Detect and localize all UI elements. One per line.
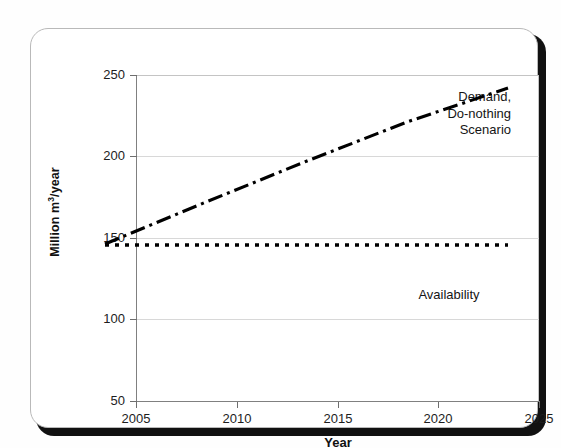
- x-tick-label-2015: 2015: [303, 412, 373, 425]
- y-tick-label-150-wrap: 150: [85, 231, 125, 245]
- y-axis-title: Million m3/year: [48, 142, 62, 282]
- y-tick-mark-200: [130, 156, 137, 157]
- y-axis-title-prefix: Million m: [48, 202, 62, 257]
- x-axis-title: Year: [136, 435, 540, 448]
- y-tick-label-150: 150: [85, 231, 125, 244]
- x-tick-label-2010: 2010: [202, 412, 272, 425]
- x-tick-mark-2025: [539, 402, 540, 408]
- y-tick-mark-100: [130, 319, 137, 320]
- gridline-150: [137, 238, 539, 239]
- y-tick-label-100-wrap: 100: [85, 312, 125, 326]
- x-tick-mark-2020: [438, 402, 439, 408]
- gridline-200: [137, 156, 539, 157]
- availability-series-annotation: Availability: [369, 287, 529, 302]
- y-axis-title-suffix: /year: [48, 167, 62, 197]
- demand-annotation-line-2: Do-nothing: [383, 106, 511, 123]
- gridline-100: [137, 319, 539, 320]
- demand-annotation-line-1: Demand,: [383, 89, 511, 106]
- y-tick-label-200-wrap: 200: [85, 149, 125, 163]
- x-tick-mark-2010: [237, 402, 238, 408]
- x-tick-label-2020: 2020: [403, 412, 473, 425]
- chart-card: 250 200 150 100 50 2005 2010 2015 2020 2…: [30, 28, 538, 428]
- y-tick-label-250: 250: [85, 68, 125, 81]
- y-tick-label-100: 100: [85, 312, 125, 325]
- y-tick-label-200: 200: [85, 149, 125, 162]
- figure-root: 250 200 150 100 50 2005 2010 2015 2020 2…: [0, 0, 561, 448]
- y-axis-title-superscript: 3: [46, 197, 56, 202]
- y-tick-label-50-wrap: 50: [85, 394, 125, 408]
- y-tick-label-50: 50: [85, 394, 125, 407]
- y-tick-mark-250: [130, 75, 137, 76]
- y-tick-mark-150: [130, 238, 137, 239]
- demand-annotation-line-3: Scenario: [383, 122, 511, 139]
- demand-series-annotation: Demand, Do-nothing Scenario: [383, 89, 511, 139]
- x-tick-mark-2005: [136, 402, 137, 408]
- x-tick-mark-2015: [338, 402, 339, 408]
- y-tick-label-250-wrap: 250: [85, 68, 125, 82]
- x-tick-label-2025: 2025: [504, 412, 561, 425]
- x-tick-label-2005: 2005: [101, 412, 171, 425]
